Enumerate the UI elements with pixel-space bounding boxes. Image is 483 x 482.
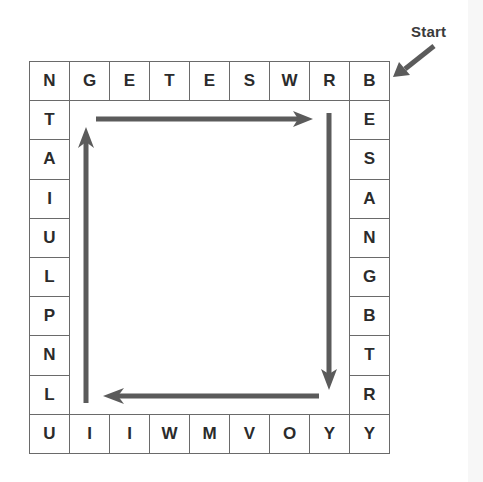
grid-cell-left-0: T xyxy=(29,100,70,140)
grid-cell-top-5: S xyxy=(229,61,270,101)
grid-cell-bottom-3: W xyxy=(149,414,190,454)
arrow-down-icon xyxy=(321,113,337,390)
grid-cell-bottom-0: U xyxy=(29,414,70,454)
grid-cell-left-2: I xyxy=(29,179,70,219)
grid-cell-right-2: A xyxy=(349,179,390,219)
grid-cell-top-2: E xyxy=(109,61,150,101)
grid-cell-right-4: G xyxy=(349,257,390,297)
grid-cell-top-6: W xyxy=(269,61,310,101)
grid-cell-left-7: L xyxy=(29,375,70,415)
grid-cell-top-4: E xyxy=(189,61,230,101)
grid-cell-right-0: E xyxy=(349,100,390,140)
grid-cell-bottom-4: M xyxy=(189,414,230,454)
grid-cell-bottom-7: Y xyxy=(309,414,350,454)
arrow-left-icon xyxy=(103,388,319,404)
grid-cell-left-4: L xyxy=(29,257,70,297)
page-edge xyxy=(468,0,483,482)
grid-cell-top-1: G xyxy=(69,61,110,101)
grid-cell-right-3: N xyxy=(349,218,390,258)
grid-cell-top-8: B xyxy=(349,61,390,101)
grid-cell-right-5: B xyxy=(349,296,390,336)
grid-cell-bottom-1: I xyxy=(69,414,110,454)
arrow-up-icon xyxy=(78,127,94,403)
grid-cell-top-3: T xyxy=(149,61,190,101)
grid-cell-bottom-5: V xyxy=(229,414,270,454)
grid-cell-left-6: N xyxy=(29,335,70,375)
start-arrow-icon xyxy=(393,46,434,77)
arrow-right-icon xyxy=(96,111,313,127)
grid-cell-left-3: U xyxy=(29,218,70,258)
grid-cell-right-1: S xyxy=(349,139,390,179)
grid-cell-bottom-8: Y xyxy=(349,414,390,454)
grid-cell-top-0: N xyxy=(29,61,70,101)
grid-cell-top-7: R xyxy=(309,61,350,101)
grid-cell-left-1: A xyxy=(29,139,70,179)
grid-cell-bottom-2: I xyxy=(109,414,150,454)
start-label: Start xyxy=(411,23,446,40)
grid-cell-right-7: R xyxy=(349,375,390,415)
grid-cell-left-5: P xyxy=(29,296,70,336)
grid-cell-right-6: T xyxy=(349,335,390,375)
grid-cell-bottom-6: O xyxy=(269,414,310,454)
